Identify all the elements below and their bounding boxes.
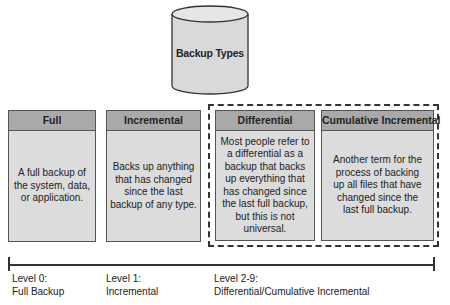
box-heading: Cumulative Incremental [322, 111, 433, 131]
box-heading: Full [9, 111, 95, 131]
box-incremental: Incremental Backs up anything that has c… [106, 110, 201, 242]
timeline-start-tick [8, 257, 10, 271]
level-number: Level 2-9: [214, 272, 369, 285]
level-name: Incremental [106, 285, 158, 298]
timeline-level-0: Level 0: Full Backup [12, 272, 64, 298]
level-name: Full Backup [12, 285, 64, 298]
box-cumulative-incremental: Cumulative Incremental Another term for … [321, 110, 434, 241]
box-description: Most people refer to a differential as a… [216, 131, 314, 240]
timeline-level-2-9: Level 2-9: Differential/Cumulative Incre… [214, 272, 369, 298]
level-number: Level 0: [12, 272, 64, 285]
level-number: Level 1: [106, 272, 158, 285]
box-heading: Differential [216, 111, 314, 131]
box-description: A full backup of the system, data, or ap… [9, 131, 95, 241]
box-full: Full A full backup of the system, data, … [8, 110, 96, 242]
level-name: Differential/Cumulative Incremental [214, 285, 369, 298]
box-description: Backs up anything that has changed since… [107, 131, 200, 241]
diagram-title: Backup Types [170, 47, 250, 59]
timeline-level-1: Level 1: Incremental [106, 272, 158, 298]
box-differential: Differential Most people refer to a diff… [215, 110, 315, 241]
box-description: Another term for the process of backing … [322, 131, 433, 240]
box-heading: Incremental [107, 111, 200, 131]
timeline-axis [8, 264, 435, 266]
timeline-end-tick [433, 257, 435, 271]
